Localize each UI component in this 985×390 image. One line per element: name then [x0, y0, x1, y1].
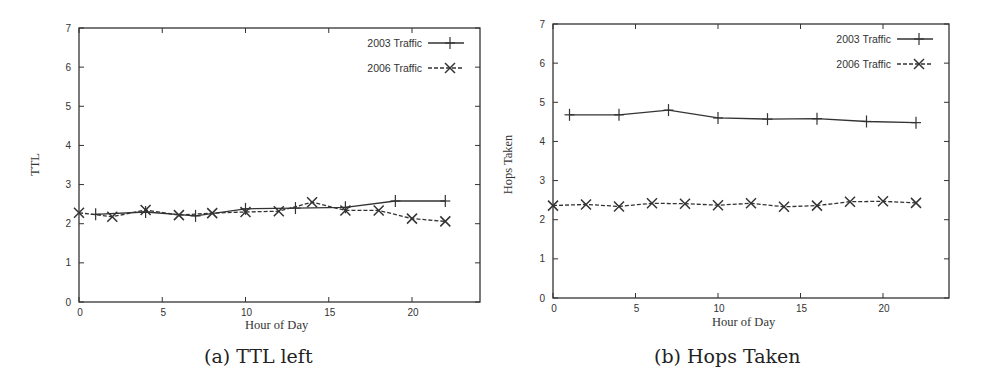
y-tick-label: 7 — [539, 19, 545, 30]
y-tick-label: 3 — [539, 175, 545, 186]
series-2003-traffic — [565, 104, 922, 129]
panel-hops-taken: 01234567051015202003 Traffic2006 Traffic… — [493, 0, 985, 390]
y-tick-label: 6 — [65, 62, 71, 73]
x-tick-label: 20 — [878, 303, 890, 314]
y-tick-label: 4 — [65, 140, 71, 151]
figure-caption: (b) Hops Taken — [654, 345, 801, 367]
figure-caption: (a) TTL left — [204, 345, 313, 367]
y-tick-label: 2 — [539, 214, 545, 225]
x-tick-label: 10 — [241, 307, 253, 318]
y-tick-label: 3 — [65, 179, 71, 190]
y-tick-label: 4 — [539, 136, 545, 147]
y-tick-label: 6 — [539, 58, 545, 69]
chart-hops-taken: 01234567051015202003 Traffic2006 Traffic — [493, 0, 985, 390]
x-tick-label: 10 — [713, 303, 725, 314]
x-axis-label: Hour of Day — [245, 318, 308, 333]
panel-ttl-left: 01234567051015202003 Traffic2006 Traffic… — [0, 0, 492, 390]
y-tick-label: 2 — [65, 218, 71, 229]
y-tick-label: 1 — [539, 253, 545, 264]
y-axis-label: TTL — [28, 153, 43, 176]
x-tick-label: 0 — [551, 303, 557, 314]
legend-label: 2006 Traffic — [367, 62, 422, 74]
legend-label: 2003 Traffic — [367, 37, 422, 49]
y-tick-label: 5 — [65, 101, 71, 112]
y-tick-label: 0 — [65, 297, 71, 308]
y-tick-label: 7 — [65, 23, 71, 34]
legend: 2003 Traffic2006 Traffic — [836, 33, 933, 70]
x-tick-label: 20 — [407, 307, 419, 318]
x-tick-label: 15 — [796, 303, 808, 314]
x-tick-label: 0 — [77, 307, 83, 318]
y-tick-label: 1 — [65, 257, 71, 268]
series-2006-traffic — [548, 196, 921, 211]
y-tick-label: 0 — [539, 293, 545, 304]
y-tick-label: 5 — [539, 97, 545, 108]
x-tick-label: 5 — [160, 307, 166, 318]
x-axis-label: Hour of Day — [712, 315, 775, 330]
legend-label: 2003 Traffic — [836, 33, 891, 45]
legend-label: 2006 Traffic — [836, 58, 891, 70]
x-tick-label: 5 — [634, 303, 640, 314]
legend: 2003 Traffic2006 Traffic — [367, 37, 464, 74]
y-axis-label: Hops Taken — [501, 135, 516, 195]
x-tick-label: 15 — [324, 307, 336, 318]
